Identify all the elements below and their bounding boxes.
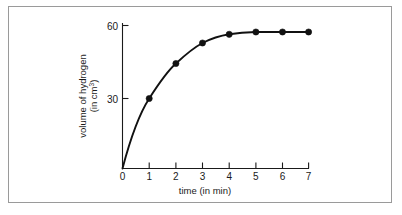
x-tick-label-5: 5 [253,171,259,182]
x-tick-label-2: 2 [173,171,179,182]
x-tick-label-4: 4 [226,171,232,182]
data-point-t6 [279,29,285,35]
data-point-t5 [253,29,259,35]
x-tick-label-6: 6 [280,171,286,182]
y-tick-label-60: 60 [107,21,119,32]
y-axis: 60 30 [107,21,129,169]
data-point-t7 [306,29,312,35]
y-axis-title-main: volume of hydrogen [77,54,88,137]
x-axis: 0 1 2 3 4 5 6 7 [120,163,312,183]
data-point-t1 [146,95,152,101]
y-axis-title: volume of hydrogen (in cm3) [77,54,99,137]
y-tick-label-30: 30 [107,94,119,105]
y-axis-units-prefix: (in cm [88,86,99,112]
y-axis-title-units: (in cm3) [88,80,100,113]
data-point-t3 [199,40,205,46]
y-axis-units-suffix: ) [88,80,99,83]
data-series-group [123,29,312,169]
x-tick-label-0: 0 [120,171,126,182]
x-axis-title: time (in min) [179,185,231,196]
data-point-t4 [226,31,232,37]
figure-root: 60 30 0 1 2 3 4 5 6 7 [0,0,402,215]
x-tick-label-1: 1 [146,171,152,182]
hydrogen-volume-line-chart: 60 30 0 1 2 3 4 5 6 7 [0,0,402,215]
data-point-t2 [173,60,179,66]
x-tick-label-3: 3 [200,171,206,182]
x-tick-label-7: 7 [306,171,312,182]
